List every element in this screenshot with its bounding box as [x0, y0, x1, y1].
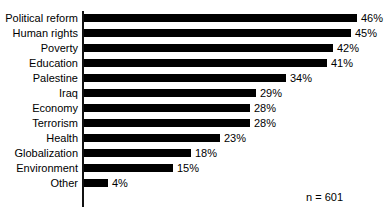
bar-row: Political reform46%	[0, 11, 392, 26]
bar-value-label: 34%	[290, 71, 312, 86]
bar-row: Health23%	[0, 131, 392, 146]
category-label: Iraq	[0, 86, 78, 101]
bar-value-label: 41%	[331, 56, 353, 71]
bar-track: 45%	[84, 26, 392, 41]
bar	[84, 59, 327, 67]
category-label: Other	[0, 176, 78, 191]
bar	[84, 89, 256, 97]
category-label: Education	[0, 56, 78, 71]
bar-track: 18%	[84, 146, 392, 161]
bar-value-label: 28%	[254, 101, 276, 116]
category-label: Poverty	[0, 41, 78, 56]
category-label: Environment	[0, 161, 78, 176]
bar	[84, 179, 108, 187]
bar-value-label: 18%	[195, 146, 217, 161]
bar-value-label: 45%	[355, 26, 377, 41]
bar	[84, 149, 191, 157]
bar-row: Palestine34%	[0, 71, 392, 86]
bar-track: 28%	[84, 101, 392, 116]
bar-track: 15%	[84, 161, 392, 176]
bar-value-label: 28%	[254, 116, 276, 131]
category-label: Health	[0, 131, 78, 146]
bar-track: 4%	[84, 176, 392, 191]
bar-track: 46%	[84, 11, 392, 26]
bar-row: Globalization18%	[0, 146, 392, 161]
sample-size-annotation: n = 601	[306, 190, 343, 204]
bar-value-label: 29%	[260, 86, 282, 101]
category-label: Economy	[0, 101, 78, 116]
bar-row: Economy28%	[0, 101, 392, 116]
bar-row: Poverty42%	[0, 41, 392, 56]
bar-value-label: 15%	[177, 161, 199, 176]
category-label: Terrorism	[0, 116, 78, 131]
bar-track: 34%	[84, 71, 392, 86]
bar-row: Other4%	[0, 176, 392, 191]
bar-row: Iraq29%	[0, 86, 392, 101]
category-label: Palestine	[0, 71, 78, 86]
bar	[84, 134, 220, 142]
bar	[84, 104, 250, 112]
category-label: Globalization	[0, 146, 78, 161]
bar	[84, 74, 286, 82]
bar	[84, 14, 357, 22]
bar-row: Human rights45%	[0, 26, 392, 41]
bar-track: 29%	[84, 86, 392, 101]
bar-rows-container: Political reform46%Human rights45%Povert…	[0, 11, 392, 191]
category-label: Political reform	[0, 11, 78, 26]
bar-value-label: 23%	[224, 131, 246, 146]
bar-row: Terrorism28%	[0, 116, 392, 131]
bar-value-label: 46%	[361, 11, 383, 26]
bar	[84, 29, 351, 37]
bar-track: 23%	[84, 131, 392, 146]
bar	[84, 44, 333, 52]
bar-track: 28%	[84, 116, 392, 131]
bar-row: Environment15%	[0, 161, 392, 176]
bar-track: 42%	[84, 41, 392, 56]
bar-row: Education41%	[0, 56, 392, 71]
bar	[84, 119, 250, 127]
bar-value-label: 4%	[112, 176, 128, 191]
bar-value-label: 42%	[337, 41, 359, 56]
bar	[84, 164, 173, 172]
category-label: Human rights	[0, 26, 78, 41]
bar-track: 41%	[84, 56, 392, 71]
bar-chart: Political reform46%Human rights45%Povert…	[0, 0, 392, 220]
